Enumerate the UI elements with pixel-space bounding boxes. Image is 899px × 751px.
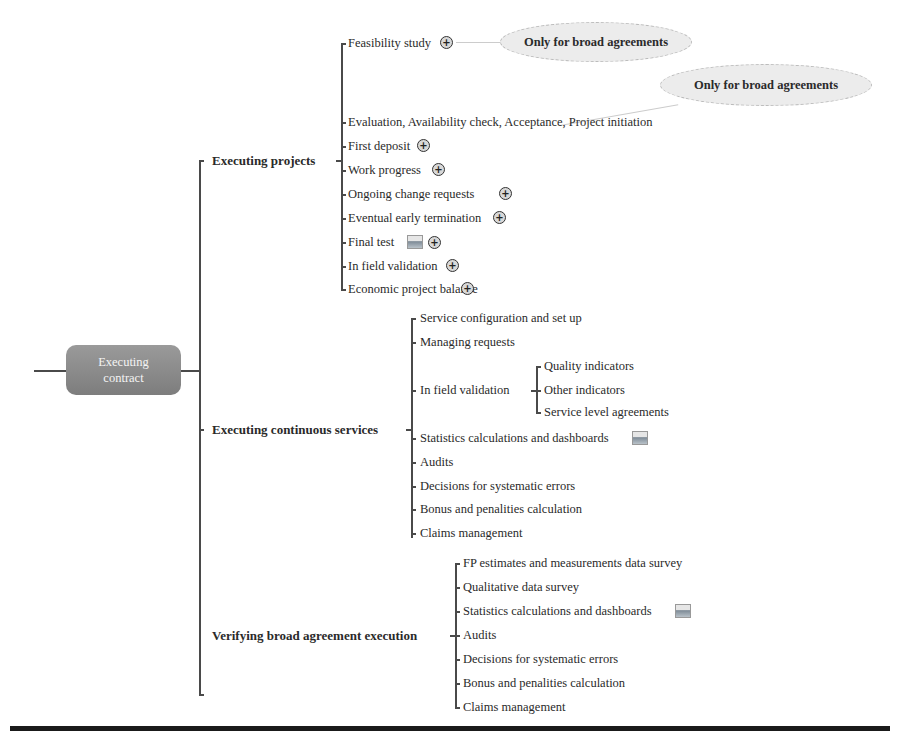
- services-link: [406, 429, 411, 431]
- tick: [411, 342, 416, 344]
- projects-bracket: [341, 43, 343, 290]
- node-evaluation-initiation[interactable]: Evaluation, Availability check, Acceptan…: [348, 114, 653, 130]
- tick: [455, 587, 460, 589]
- node-ongoing-change-requests[interactable]: Ongoing change requests: [348, 186, 474, 202]
- expand-plus-icon[interactable]: +: [461, 282, 474, 295]
- tick: [341, 218, 346, 220]
- node-audits-verifying[interactable]: Audits: [463, 627, 496, 643]
- node-fp-estimates-survey[interactable]: FP estimates and measurements data surve…: [463, 555, 682, 571]
- tick: [536, 412, 541, 414]
- node-claims-management-verifying[interactable]: Claims management: [463, 699, 565, 715]
- node-service-level-agreements[interactable]: Service level agreements: [544, 404, 669, 420]
- level1-tick-mid: [199, 429, 204, 431]
- tick: [411, 509, 416, 511]
- level1-tick-top: [199, 160, 204, 162]
- node-statistics-dashboards-verifying[interactable]: Statistics calculations and dashboards: [463, 603, 652, 619]
- root-label-line1: Executing: [98, 354, 149, 370]
- node-decisions-systematic-errors-verifying[interactable]: Decisions for systematic errors: [463, 651, 618, 667]
- tick: [411, 533, 416, 535]
- node-decisions-systematic-errors[interactable]: Decisions for systematic errors: [420, 478, 575, 494]
- tick: [411, 438, 416, 440]
- node-economic-project-balance[interactable]: Economic project balance: [348, 281, 478, 297]
- tick: [341, 146, 346, 148]
- tick: [455, 707, 460, 709]
- tick: [455, 683, 460, 685]
- root-label-line2: contract: [98, 370, 149, 386]
- tick: [455, 659, 460, 661]
- callout-text: Only for broad agreements: [694, 78, 838, 92]
- tick: [455, 635, 460, 637]
- tick: [341, 289, 346, 291]
- node-work-progress[interactable]: Work progress: [348, 162, 421, 178]
- tick: [536, 366, 541, 368]
- expand-plus-icon[interactable]: +: [432, 163, 445, 176]
- node-in-field-validation[interactable]: In field validation: [348, 258, 438, 274]
- root-node-executing-contract[interactable]: Executing contract: [66, 345, 181, 395]
- branch-verifying-broad-agreement-execution[interactable]: Verifying broad agreement execution: [212, 628, 417, 644]
- tick: [411, 462, 416, 464]
- tick: [536, 390, 541, 392]
- services-bracket: [411, 318, 413, 538]
- image-attachment-icon[interactable]: [675, 604, 691, 618]
- branch-executing-continuous-services[interactable]: Executing continuous services: [212, 422, 378, 438]
- image-attachment-icon[interactable]: [407, 235, 423, 249]
- expand-plus-icon[interactable]: +: [446, 259, 459, 272]
- tick: [411, 486, 416, 488]
- node-statistics-dashboards[interactable]: Statistics calculations and dashboards: [420, 430, 609, 446]
- tick: [341, 122, 346, 124]
- callout-text: Only for broad agreements: [524, 35, 668, 49]
- tick: [341, 43, 346, 45]
- expand-plus-icon[interactable]: +: [499, 187, 512, 200]
- image-attachment-icon[interactable]: [632, 431, 648, 445]
- tick: [341, 266, 346, 268]
- node-in-field-validation-services[interactable]: In field validation: [420, 382, 510, 398]
- branch-executing-projects[interactable]: Executing projects: [212, 153, 315, 169]
- callout-bubble: Only for broad agreements: [500, 22, 692, 62]
- expand-plus-icon[interactable]: +: [428, 236, 441, 249]
- root-incoming-connector: [34, 370, 66, 372]
- tick: [341, 170, 346, 172]
- validation-bracket: [536, 366, 538, 412]
- tick: [455, 563, 460, 565]
- node-service-configuration[interactable]: Service configuration and set up: [420, 310, 582, 326]
- node-audits[interactable]: Audits: [420, 454, 453, 470]
- projects-link: [336, 160, 341, 162]
- level1-tick-bottom: [199, 694, 204, 696]
- callout-connector: [456, 42, 506, 43]
- root-outgoing-connector: [181, 370, 199, 372]
- node-quality-indicators[interactable]: Quality indicators: [544, 358, 634, 374]
- node-final-test[interactable]: Final test: [348, 234, 394, 250]
- tick: [455, 611, 460, 613]
- node-feasibility-study[interactable]: Feasibility study: [348, 35, 431, 51]
- tick: [341, 194, 346, 196]
- node-bonus-penalities-verifying[interactable]: Bonus and penalities calculation: [463, 675, 625, 691]
- node-claims-management[interactable]: Claims management: [420, 525, 522, 541]
- node-qualitative-data-survey[interactable]: Qualitative data survey: [463, 579, 579, 595]
- node-other-indicators[interactable]: Other indicators: [544, 382, 625, 398]
- tick: [341, 242, 346, 244]
- node-eventual-early-termination[interactable]: Eventual early termination: [348, 210, 481, 226]
- level1-bracket: [199, 160, 201, 695]
- node-first-deposit[interactable]: First deposit: [348, 138, 410, 154]
- callout-bubble: Only for broad agreements: [660, 64, 872, 106]
- node-bonus-penalities[interactable]: Bonus and penalities calculation: [420, 501, 582, 517]
- expand-plus-icon[interactable]: +: [440, 36, 453, 49]
- tick: [411, 390, 416, 392]
- bottom-rule: [10, 726, 890, 731]
- expand-plus-icon[interactable]: +: [417, 139, 430, 152]
- tick: [411, 318, 416, 320]
- node-managing-requests[interactable]: Managing requests: [420, 334, 515, 350]
- expand-plus-icon[interactable]: +: [493, 211, 506, 224]
